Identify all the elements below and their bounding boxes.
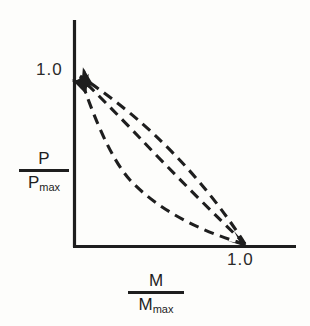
x-axis-title-denominator: Mmax [135, 294, 178, 315]
y-axis-title-numerator: P [34, 150, 53, 169]
y-axis-title-denominator-subscript: max [39, 181, 60, 193]
figure-canvas: 1.0 1.0 P Pmax M Mmax [0, 0, 310, 326]
y-axis-title: P Pmax [19, 150, 69, 193]
y-axis-tick-label: 1.0 [36, 60, 63, 80]
x-axis-title-denominator-base: M [139, 295, 153, 314]
x-axis-tick-label: 1.0 [227, 250, 254, 270]
y-axis-title-denominator: Pmax [24, 172, 64, 193]
x-axis-title-numerator: M [145, 272, 167, 291]
x-axis-title-denominator-subscript: max [153, 303, 174, 315]
curve-near-straight [80, 77, 245, 244]
y-axis-title-denominator-base: P [28, 173, 39, 192]
x-axis-title: M Mmax [128, 272, 184, 315]
